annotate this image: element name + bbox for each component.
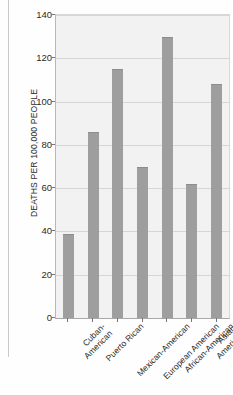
bar: [63, 234, 74, 318]
page-edge-rule: [8, 0, 9, 357]
bar-series: [56, 15, 229, 318]
plot-area: [55, 14, 230, 319]
bar: [186, 184, 197, 318]
y-tick-label: 20: [22, 268, 52, 279]
bar: [112, 69, 123, 318]
y-axis-title: DEATHS PER 100,000 PEOPLE: [29, 53, 39, 253]
bar-chart-figure: DEATHS PER 100,000 PEOPLE 02040608010012…: [0, 0, 233, 395]
x-axis-labels: Cuban- AmericanPuerto RicanMexican-Ameri…: [0, 320, 233, 395]
x-tick-label: Puerto Rican: [104, 322, 145, 363]
bar: [88, 132, 99, 318]
bar: [137, 167, 148, 319]
y-tick-label: 140: [22, 9, 52, 20]
bar: [211, 84, 222, 318]
bar: [162, 37, 173, 318]
